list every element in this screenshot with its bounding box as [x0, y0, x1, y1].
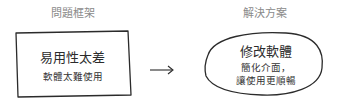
solution-title: 修改軟體: [210, 41, 322, 60]
problem-description: 軟體太難使用: [15, 70, 130, 83]
right-arrow-icon: [150, 66, 173, 74]
solution-description-line2: 讓使用更順暢: [210, 74, 322, 87]
solution-description-line1: 簡化介面，: [210, 61, 322, 74]
problem-title: 易用性太差: [15, 47, 130, 66]
